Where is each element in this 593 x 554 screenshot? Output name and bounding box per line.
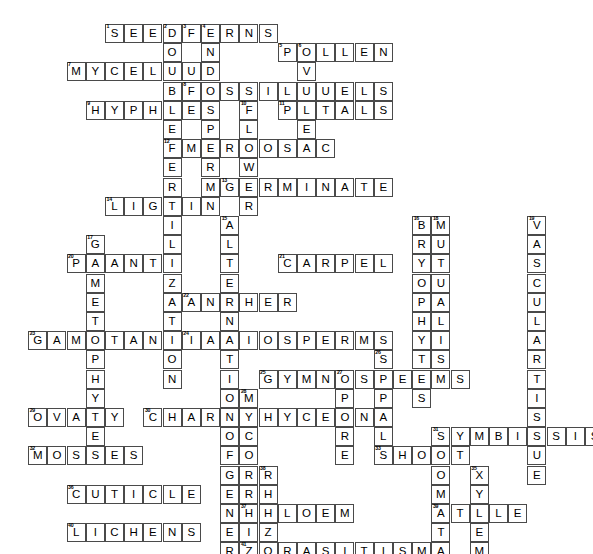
crossword-cell[interactable]: T: [451, 446, 470, 465]
crossword-cell[interactable]: H: [143, 101, 162, 120]
crossword-cell[interactable]: A: [163, 293, 182, 312]
crossword-cell[interactable]: S: [259, 24, 278, 43]
crossword-cell[interactable]: I: [239, 523, 258, 542]
crossword-cell[interactable]: 18M: [431, 216, 450, 235]
crossword-cell[interactable]: L: [470, 504, 489, 523]
crossword-cell[interactable]: Y: [86, 389, 105, 408]
crossword-cell[interactable]: E: [220, 485, 239, 504]
crossword-cell[interactable]: L: [278, 82, 297, 101]
crossword-cell[interactable]: M: [67, 331, 86, 350]
crossword-cell[interactable]: R: [201, 408, 220, 427]
crossword-cell[interactable]: C: [143, 485, 162, 504]
crossword-cell[interactable]: T: [220, 254, 239, 273]
crossword-cell[interactable]: H: [259, 504, 278, 523]
crossword-cell[interactable]: N: [163, 370, 182, 389]
crossword-cell[interactable]: E: [105, 446, 124, 465]
crossword-cell[interactable]: 12F: [163, 139, 182, 158]
crossword-cell[interactable]: O: [220, 427, 239, 446]
crossword-cell[interactable]: 30C: [143, 408, 162, 427]
crossword-cell[interactable]: S: [393, 542, 412, 554]
crossword-cell[interactable]: E: [355, 43, 374, 62]
crossword-cell[interactable]: O: [335, 408, 354, 427]
crossword-cell[interactable]: L: [374, 427, 393, 446]
crossword-cell[interactable]: 8F: [182, 82, 201, 101]
crossword-cell[interactable]: U: [431, 235, 450, 254]
crossword-cell[interactable]: L: [297, 101, 316, 120]
crossword-cell[interactable]: U: [182, 62, 201, 81]
crossword-cell[interactable]: R: [278, 293, 297, 312]
crossword-cell[interactable]: M: [431, 370, 450, 389]
crossword-cell[interactable]: R: [335, 331, 354, 350]
crossword-cell[interactable]: B: [163, 82, 182, 101]
crossword-cell[interactable]: Y: [105, 408, 124, 427]
crossword-cell[interactable]: G: [220, 466, 239, 485]
crossword-cell[interactable]: R: [163, 178, 182, 197]
crossword-cell[interactable]: M: [278, 178, 297, 197]
crossword-cell[interactable]: F: [220, 446, 239, 465]
crossword-cell[interactable]: 25G: [259, 370, 278, 389]
crossword-cell[interactable]: 21C: [278, 254, 297, 273]
crossword-cell[interactable]: L: [431, 312, 450, 331]
crossword-cell[interactable]: C: [239, 427, 258, 446]
crossword-cell[interactable]: H: [259, 408, 278, 427]
crossword-cell[interactable]: S: [182, 523, 201, 542]
crossword-cell[interactable]: T: [527, 370, 546, 389]
crossword-cell[interactable]: S: [585, 427, 593, 446]
crossword-cell[interactable]: P: [86, 350, 105, 369]
crossword-cell[interactable]: O: [259, 542, 278, 554]
crossword-cell[interactable]: M: [86, 274, 105, 293]
crossword-cell[interactable]: S: [124, 446, 143, 465]
crossword-cell[interactable]: E: [143, 24, 162, 43]
crossword-cell[interactable]: 26S: [374, 350, 393, 369]
crossword-cell[interactable]: A: [297, 139, 316, 158]
crossword-cell[interactable]: S: [374, 101, 393, 120]
crossword-cell[interactable]: 24I: [182, 331, 201, 350]
crossword-cell[interactable]: 37H: [239, 504, 258, 523]
crossword-cell[interactable]: M: [355, 331, 374, 350]
crossword-cell[interactable]: Y: [105, 101, 124, 120]
crossword-cell[interactable]: N: [201, 293, 220, 312]
crossword-cell[interactable]: Y: [470, 485, 489, 504]
crossword-cell[interactable]: E: [239, 178, 258, 197]
crossword-cell[interactable]: O: [412, 446, 431, 465]
crossword-cell[interactable]: T: [451, 504, 470, 523]
crossword-cell[interactable]: 14L: [105, 197, 124, 216]
crossword-cell[interactable]: S: [374, 331, 393, 350]
crossword-cell[interactable]: I: [124, 197, 143, 216]
crossword-cell[interactable]: N: [201, 197, 220, 216]
crossword-cell[interactable]: C: [527, 274, 546, 293]
crossword-cell[interactable]: R: [316, 254, 335, 273]
crossword-cell[interactable]: E: [355, 254, 374, 273]
crossword-cell[interactable]: A: [105, 254, 124, 273]
crossword-cell[interactable]: I: [239, 331, 258, 350]
crossword-cell[interactable]: Y: [278, 408, 297, 427]
crossword-cell[interactable]: 40L: [67, 523, 86, 542]
crossword-cell[interactable]: N: [355, 408, 374, 427]
crossword-cell[interactable]: E: [335, 82, 354, 101]
crossword-cell[interactable]: W: [239, 158, 258, 177]
crossword-cell[interactable]: E: [393, 370, 412, 389]
crossword-cell[interactable]: U: [527, 446, 546, 465]
crossword-cell[interactable]: O: [431, 466, 450, 485]
crossword-cell[interactable]: C: [105, 62, 124, 81]
crossword-cell[interactable]: S: [431, 350, 450, 369]
crossword-cell[interactable]: S: [355, 370, 374, 389]
crossword-cell[interactable]: I: [163, 254, 182, 273]
crossword-cell[interactable]: N: [163, 523, 182, 542]
crossword-cell[interactable]: M: [470, 542, 489, 554]
crossword-cell[interactable]: I: [566, 427, 585, 446]
crossword-cell[interactable]: R: [412, 235, 431, 254]
crossword-cell[interactable]: U: [86, 485, 105, 504]
crossword-cell[interactable]: H: [239, 293, 258, 312]
crossword-cell[interactable]: C: [105, 523, 124, 542]
crossword-cell[interactable]: I: [374, 542, 393, 554]
crossword-cell[interactable]: E: [259, 293, 278, 312]
crossword-cell[interactable]: L: [355, 101, 374, 120]
crossword-cell[interactable]: S: [220, 82, 239, 101]
crossword-cell[interactable]: L: [335, 43, 354, 62]
crossword-cell[interactable]: 35X: [470, 466, 489, 485]
crossword-cell[interactable]: O: [297, 504, 316, 523]
crossword-cell[interactable]: R: [220, 293, 239, 312]
crossword-cell[interactable]: Y: [451, 427, 470, 446]
crossword-cell[interactable]: P: [335, 389, 354, 408]
